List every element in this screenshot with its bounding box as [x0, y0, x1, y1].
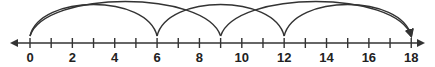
- jump-arc-9-to-18: [221, 2, 412, 37]
- jump-arc-0-to-6: [30, 5, 157, 37]
- tick-label-6: 6: [153, 50, 160, 65]
- number-line-diagram: 024681012141618: [0, 0, 435, 67]
- tick-label-2: 2: [69, 50, 76, 65]
- tick-label-0: 0: [26, 50, 33, 65]
- tick-label-10: 10: [235, 50, 249, 65]
- jump-arcs: [30, 2, 411, 37]
- tick-label-4: 4: [111, 50, 119, 65]
- tick-label-18: 18: [404, 50, 418, 65]
- jump-arc-0-to-9: [30, 2, 221, 37]
- tick-label-8: 8: [196, 50, 203, 65]
- jump-arc-12-to-18: [284, 5, 411, 37]
- tick-labels: 024681012141618: [26, 50, 418, 65]
- jump-arc-6-to-12: [157, 5, 284, 37]
- tick-label-12: 12: [277, 50, 291, 65]
- tick-label-14: 14: [319, 50, 334, 65]
- number-line-svg: 024681012141618: [0, 0, 435, 67]
- tick-label-16: 16: [362, 50, 376, 65]
